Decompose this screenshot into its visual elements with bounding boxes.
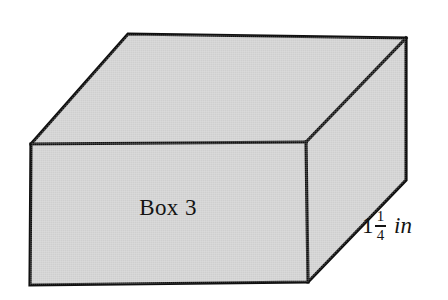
box-figure: Box 3 1 1 4 in — [0, 0, 448, 300]
depth-unit: in — [394, 214, 412, 237]
depth-whole-number: 1 — [362, 214, 374, 237]
depth-dimension-label: 1 1 4 in — [362, 209, 412, 243]
edge-front-right-vertical — [306, 142, 308, 282]
box-3d-drawing — [0, 0, 448, 300]
front-face-label: Box 3 — [108, 196, 228, 220]
edge-front-top — [31, 142, 306, 144]
depth-fraction-numerator: 1 — [376, 209, 386, 225]
depth-fraction-denominator: 4 — [376, 227, 386, 243]
depth-fraction: 1 4 — [375, 209, 386, 243]
